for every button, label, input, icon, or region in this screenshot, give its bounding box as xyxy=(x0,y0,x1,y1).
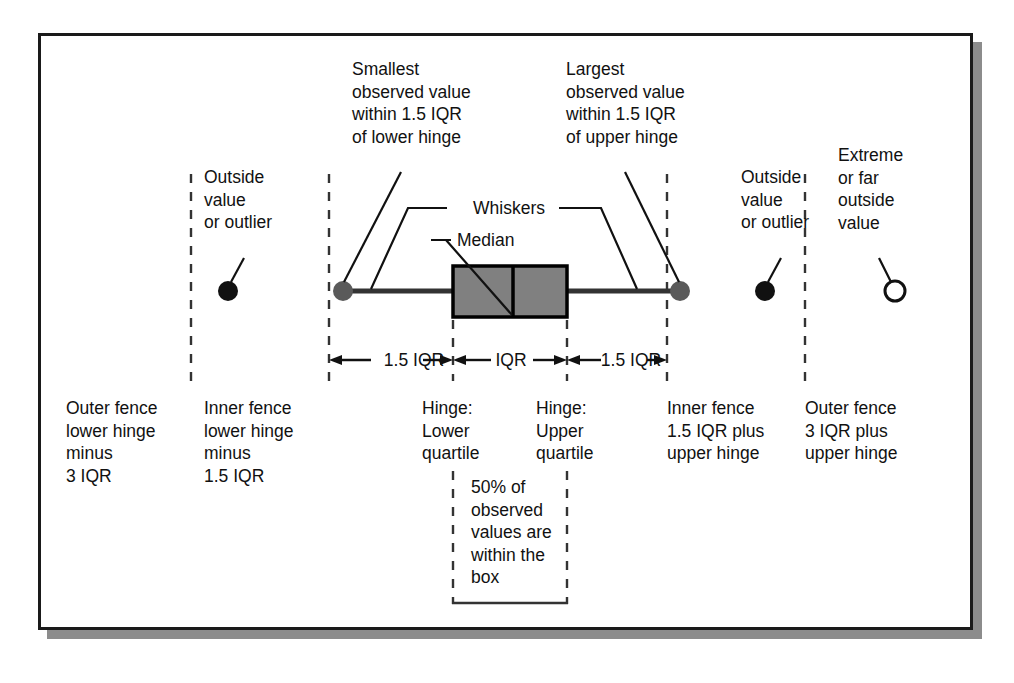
outlier-left-leader xyxy=(231,258,244,282)
hinge-upper-label: Hinge: Upper quartile xyxy=(536,397,646,465)
figure-page: Smallest observed value within 1.5 IQR o… xyxy=(0,0,1014,683)
outlier-right-leader xyxy=(768,258,781,282)
span-iqr-left-arrowhead xyxy=(453,355,466,365)
outlier-dot-right xyxy=(755,281,775,301)
upper-whisker-cap-dot xyxy=(670,281,690,301)
whiskers-label: Whiskers xyxy=(453,197,565,220)
span-lower-left-arrowhead xyxy=(329,355,342,365)
fifty-percent-label: 50% of observed values are within the bo… xyxy=(471,476,591,589)
extreme-value-leader xyxy=(879,258,891,282)
largest-observed-value-label: Largest observed value within 1.5 IQR of… xyxy=(566,58,741,148)
whiskers-leader-left xyxy=(371,208,447,289)
iqr-box xyxy=(453,266,567,317)
largest-observed-leader xyxy=(625,172,679,282)
outlier-dot-left xyxy=(218,281,238,301)
inner-fence-upper-label: Inner fence 1.5 IQR plus upper hinge xyxy=(667,397,812,465)
whiskers-leader-right xyxy=(559,208,637,289)
span-upper-left-arrowhead xyxy=(567,355,580,365)
inner-fence-lower-label: Inner fence lower hinge minus 1.5 IQR xyxy=(204,397,349,487)
outer-fence-lower-label: Outer fence lower hinge minus 3 IQR xyxy=(66,397,211,487)
median-label: Median xyxy=(457,229,567,252)
extreme-value-label: Extreme or far outside value xyxy=(838,144,968,234)
hinge-lower-label: Hinge: Lower quartile xyxy=(422,397,532,465)
outer-fence-upper-label: Outer fence 3 IQR plus upper hinge xyxy=(805,397,950,465)
span-iqr-label: IQR xyxy=(487,349,535,372)
span-lower-label: 1.5 IQR xyxy=(374,349,454,372)
figure-frame: Smallest observed value within 1.5 IQR o… xyxy=(38,33,973,630)
span-upper-label: 1.5 IQR xyxy=(591,349,671,372)
lower-whisker-cap-dot xyxy=(333,281,353,301)
extreme-value-dot xyxy=(885,281,905,301)
span-iqr-right-arrowhead xyxy=(554,355,567,365)
outside-value-left-label: Outside value or outlier xyxy=(204,166,354,234)
smallest-observed-value-label: Smallest observed value within 1.5 IQR o… xyxy=(352,58,522,148)
